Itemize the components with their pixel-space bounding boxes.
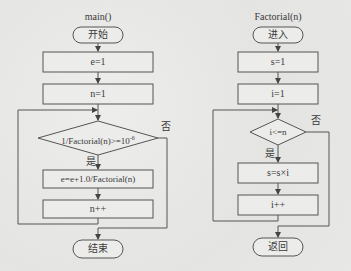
flowchart-lines bbox=[0, 0, 351, 271]
main-condition-text: 1/Factorial(n)>=10 bbox=[61, 136, 130, 146]
main-start-label: 开始 bbox=[88, 29, 108, 41]
fact-step-i1: i=1 bbox=[271, 88, 284, 100]
fact-title: Factorial(n) bbox=[254, 11, 301, 23]
flowchart-canvas: main() 开始 e=1 n=1 1/Factorial(n)>=10-6 否… bbox=[0, 0, 351, 271]
fact-step-s1: s=1 bbox=[271, 56, 286, 68]
fact-loop-step-mult: s=s×i bbox=[267, 167, 289, 179]
fact-loop-step-inc: i++ bbox=[271, 199, 285, 211]
main-step-n1: n=1 bbox=[90, 88, 106, 100]
fact-end-label: 返回 bbox=[268, 241, 288, 253]
main-condition-exponent: -6 bbox=[130, 135, 135, 141]
main-no-label: 否 bbox=[161, 121, 171, 133]
main-title: main() bbox=[85, 11, 112, 23]
fact-condition: i<=n bbox=[269, 126, 286, 138]
fact-yes-label: 是 bbox=[265, 148, 275, 160]
main-loop-step-update: e=e+1.0/Factorial(n) bbox=[61, 173, 135, 185]
main-yes-label: 是 bbox=[86, 156, 96, 168]
fact-start-label: 进入 bbox=[268, 29, 288, 41]
fact-no-label: 否 bbox=[311, 115, 321, 127]
main-end-label: 结束 bbox=[88, 243, 108, 255]
main-loop-step-inc: n++ bbox=[90, 203, 106, 215]
main-condition: 1/Factorial(n)>=10-6 bbox=[61, 132, 135, 147]
main-step-e1: e=1 bbox=[90, 56, 105, 68]
